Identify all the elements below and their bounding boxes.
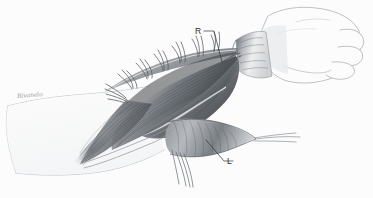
label-L: L [227, 157, 232, 166]
anatomical-figure: R L Rivanelo [0, 0, 373, 198]
paper-grain [0, 0, 373, 198]
label-R: R [195, 27, 201, 36]
forearm-dissection-drawing [0, 0, 373, 198]
